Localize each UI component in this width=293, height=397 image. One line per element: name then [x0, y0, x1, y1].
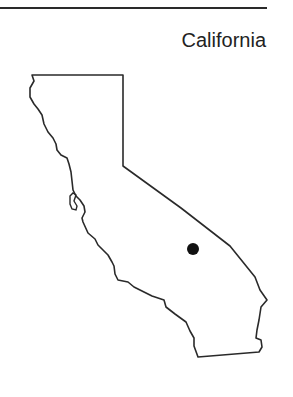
location-marker-icon — [187, 243, 199, 255]
sf-bay — [70, 193, 77, 210]
california-map — [0, 0, 293, 397]
state-outline — [30, 75, 267, 357]
